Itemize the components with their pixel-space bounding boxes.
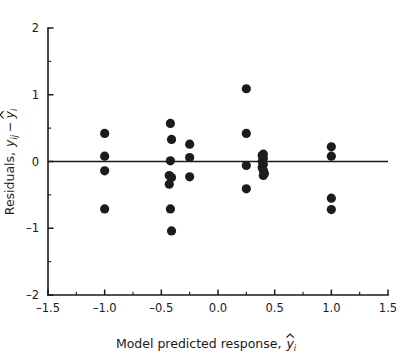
- data-point: [327, 205, 336, 214]
- data-points-group: [100, 84, 336, 235]
- data-point: [100, 129, 109, 138]
- data-point: [166, 156, 175, 165]
- data-point: [100, 204, 109, 213]
- data-point: [327, 194, 336, 203]
- x-tick-label: 0.5: [266, 301, 284, 315]
- y-tick-label: –2: [26, 288, 39, 302]
- y-tick-label: –1: [26, 221, 39, 235]
- x-tick-label: 1.0: [322, 301, 340, 315]
- data-point: [185, 172, 194, 181]
- data-point: [242, 184, 251, 193]
- data-point: [327, 142, 336, 151]
- data-point: [242, 161, 251, 170]
- data-point: [185, 140, 194, 149]
- y-tick-label: 0: [32, 155, 39, 169]
- data-point: [166, 119, 175, 128]
- x-axis-title: Model predicted response,yi: [116, 334, 297, 352]
- y-axis-title: Residuals,yij−yi: [0, 108, 18, 215]
- x-tick-label: 1.5: [379, 301, 397, 315]
- y-tick-label: 1: [32, 88, 39, 102]
- data-point: [165, 180, 174, 189]
- data-point: [100, 166, 109, 175]
- y-axis-tick-labels: –2–1012: [26, 21, 39, 302]
- svg-text:Residuals,yij−yi: Residuals,yij−yi: [2, 108, 19, 215]
- x-tick-label: 0.0: [209, 301, 227, 315]
- data-point: [100, 152, 109, 161]
- x-tick-label: –1.5: [36, 301, 60, 315]
- data-point: [259, 171, 268, 180]
- residual-plot-figure: –1.5–1.0–0.50.00.51.01.5 –2–1012 Model p…: [0, 0, 402, 355]
- x-tick-label: –1.0: [93, 301, 117, 315]
- data-point: [166, 204, 175, 213]
- data-point: [242, 84, 251, 93]
- data-point: [167, 135, 176, 144]
- scatter-plot-svg: –1.5–1.0–0.50.00.51.01.5 –2–1012 Model p…: [0, 0, 402, 355]
- data-point: [242, 129, 251, 138]
- x-axis-tick-labels: –1.5–1.0–0.50.00.51.01.5: [36, 301, 397, 315]
- svg-text:Model predicted response,yi: Model predicted response,yi: [116, 336, 297, 353]
- data-point: [167, 226, 176, 235]
- y-tick-label: 2: [32, 21, 39, 35]
- x-tick-label: –0.5: [149, 301, 173, 315]
- data-point: [185, 153, 194, 162]
- data-point: [327, 152, 336, 161]
